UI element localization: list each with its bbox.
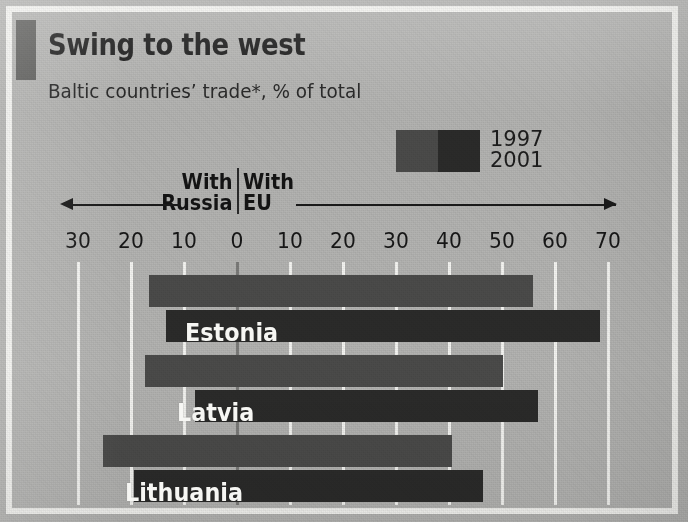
legend-swatch-1997-light bbox=[396, 130, 438, 151]
gridline bbox=[130, 262, 133, 505]
axis-tick-label: 20 bbox=[118, 228, 144, 253]
legend-swatch-row-2001 bbox=[396, 151, 480, 172]
bar-lithuania-1997 bbox=[103, 435, 452, 467]
chart-title: Swing to the west bbox=[48, 26, 305, 62]
axis-center-divider bbox=[237, 168, 239, 214]
axis-tick-label: 50 bbox=[489, 228, 515, 253]
axis-tick-label: 10 bbox=[277, 228, 303, 253]
arrow-right-icon bbox=[604, 198, 617, 210]
legend-label-1997: 1997 bbox=[490, 129, 543, 150]
plot-area: EstoniaLatviaLithuania bbox=[0, 262, 688, 510]
gridline bbox=[607, 262, 610, 505]
axis-direction-russia: With Russia bbox=[60, 172, 232, 218]
axis-direction-russia-label: With Russia bbox=[161, 172, 232, 214]
arrow-left-icon bbox=[60, 198, 73, 210]
axis-tick-label: 60 bbox=[542, 228, 568, 253]
axis-tick-label: 20 bbox=[330, 228, 356, 253]
axis-arrow-line-left bbox=[70, 204, 180, 206]
axis-tick-label: 70 bbox=[595, 228, 621, 253]
legend-swatch-row-1997 bbox=[396, 130, 480, 151]
axis-tick-label: 0 bbox=[231, 228, 244, 253]
axis-tick-label: 10 bbox=[171, 228, 197, 253]
chart-legend: 1997 2001 bbox=[396, 130, 576, 176]
axis-direction-russia-line1: With bbox=[161, 172, 232, 193]
axis-arrow-line-right bbox=[296, 204, 616, 206]
gridline bbox=[554, 262, 557, 505]
legend-label-2001: 2001 bbox=[490, 150, 543, 171]
country-label-lithuania: Lithuania bbox=[125, 479, 243, 507]
gridline bbox=[77, 262, 80, 505]
axis-tick-label: 40 bbox=[436, 228, 462, 253]
bar-latvia-1997 bbox=[145, 355, 503, 387]
axis-tick-label: 30 bbox=[65, 228, 91, 253]
bar-estonia-1997 bbox=[149, 275, 533, 307]
country-label-latvia: Latvia bbox=[177, 399, 254, 427]
axis-direction-eu-line1: With bbox=[243, 172, 294, 193]
legend-swatch-2001-dark bbox=[438, 151, 480, 172]
legend-swatch-2001-light bbox=[396, 151, 438, 172]
axis-direction-eu: With EU bbox=[243, 172, 443, 218]
chart-figure: Swing to the west Baltic countries’ trad… bbox=[0, 0, 688, 522]
title-marker bbox=[16, 20, 36, 80]
country-label-estonia: Estonia bbox=[185, 319, 278, 347]
chart-subtitle: Baltic countries’ trade*, % of total bbox=[48, 79, 361, 103]
legend-swatch-1997-dark bbox=[438, 130, 480, 151]
axis-direction-eu-line2: EU bbox=[243, 193, 294, 214]
axis-tick-label: 30 bbox=[383, 228, 409, 253]
axis-direction-eu-label: With EU bbox=[243, 172, 294, 214]
